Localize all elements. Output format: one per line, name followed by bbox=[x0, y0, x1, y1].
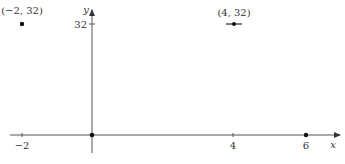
x-tick-label-6: 6 bbox=[303, 140, 309, 151]
x-tick-label-neg2: −2 bbox=[15, 140, 30, 151]
point-origin bbox=[90, 133, 95, 138]
y-axis-label: y bbox=[82, 4, 89, 15]
x-axis-label: x bbox=[330, 139, 336, 150]
point-label-4-32: (4, 32) bbox=[217, 7, 250, 18]
point-6-0 bbox=[304, 133, 308, 137]
y-tick-label-32: 32 bbox=[74, 19, 87, 30]
point-4-32 bbox=[232, 22, 236, 26]
chart-canvas: −2 4 6 32 x y (−2, 32) (4, 32) bbox=[0, 0, 345, 164]
x-tick-label-4: 4 bbox=[230, 140, 236, 151]
point-label-neg2-32: (−2, 32) bbox=[1, 5, 43, 16]
point-neg2-32 bbox=[20, 22, 24, 26]
